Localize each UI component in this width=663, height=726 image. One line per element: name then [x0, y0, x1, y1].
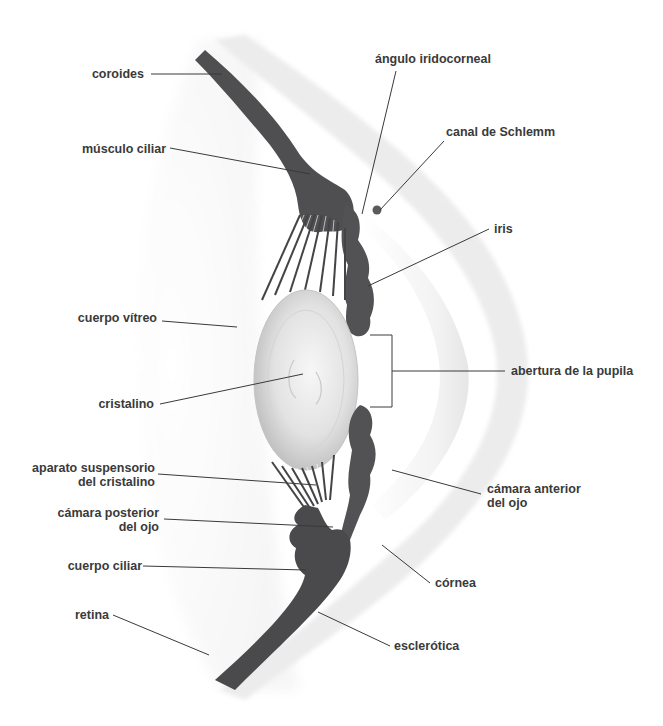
label-retina: retina	[75, 608, 109, 622]
lens	[254, 290, 358, 470]
label-coroides: coroides	[92, 67, 144, 81]
label-abertura-pupila: abertura de la pupila	[511, 364, 633, 378]
label-cuerpo-vitreo: cuerpo vítreo	[78, 311, 157, 325]
anterior-chamber	[362, 215, 469, 520]
label-iris: iris	[494, 222, 513, 236]
label-aparato-suspensorio-line1: aparato suspensorio	[32, 461, 155, 475]
label-camara-posterior-line2: del ojo	[58, 520, 159, 534]
label-aparato-suspensorio: aparato suspensorio del cristalino	[32, 461, 155, 489]
label-angulo-iridocorneal: ángulo iridocorneal	[375, 52, 491, 66]
label-aparato-suspensorio-line2: del cristalino	[32, 475, 155, 489]
label-cristalino: cristalino	[98, 397, 154, 411]
label-musculo-ciliar: músculo ciliar	[82, 142, 166, 156]
label-cornea: córnea	[435, 576, 476, 590]
label-camara-posterior-line1: cámara posterior	[58, 506, 159, 520]
label-camara-posterior: cámara posterior del ojo	[58, 506, 159, 534]
label-camara-anterior-line2: del ojo	[487, 496, 581, 510]
label-camara-anterior-line1: cámara anterior	[487, 482, 581, 496]
label-cuerpo-ciliar: cuerpo ciliar	[68, 559, 142, 573]
label-camara-anterior: cámara anterior del ojo	[487, 482, 581, 510]
label-esclerotica: esclerótica	[394, 639, 459, 653]
label-canal-de-schlemm: canal de Schlemm	[446, 125, 555, 139]
